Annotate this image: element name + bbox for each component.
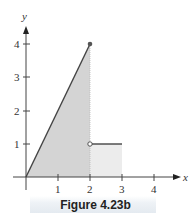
open-endpoint-icon <box>88 142 92 146</box>
y-axis-label: y <box>21 10 27 22</box>
x-tick-label-1: 1 <box>55 183 61 195</box>
x-tick-label-3: 3 <box>119 183 125 195</box>
closed-endpoint-icon <box>88 42 93 47</box>
chart-plot: 1 2 3 4 1 2 3 4 x y <box>0 0 191 215</box>
y-tick-label-4: 4 <box>14 38 20 50</box>
x-axis-label: x <box>182 171 188 183</box>
figure-caption: Figure 4.23b <box>0 198 191 212</box>
x-tick-label-2: 2 <box>87 183 93 195</box>
x-tick-label-4: 4 <box>151 183 157 195</box>
shaded-rectangle <box>90 144 122 177</box>
x-axis-arrow-icon <box>173 174 181 180</box>
y-axis-arrow-icon <box>23 26 29 34</box>
y-tick-label-1: 1 <box>14 138 20 150</box>
y-tick-label-3: 3 <box>14 71 20 83</box>
y-tick-label-2: 2 <box>14 105 20 117</box>
